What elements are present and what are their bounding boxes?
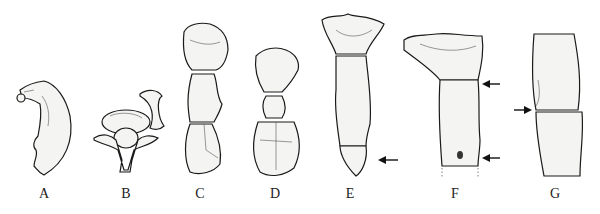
panel-label-a: A bbox=[34, 186, 54, 202]
figure-drawing bbox=[0, 0, 600, 214]
bone-specimen-figure: A B C D E F G bbox=[0, 0, 600, 214]
panel-label-c: C bbox=[190, 186, 210, 202]
panel-label-e: E bbox=[340, 186, 360, 202]
panel-label-g: G bbox=[545, 186, 565, 202]
panel-a-specimen bbox=[17, 81, 71, 175]
panel-label-f: F bbox=[445, 186, 465, 202]
panel-label-d: D bbox=[265, 186, 285, 202]
panel-f-specimen bbox=[404, 33, 500, 178]
panel-c-specimen bbox=[183, 23, 228, 173]
panel-e-specimen bbox=[322, 14, 398, 176]
panel-d-specimen bbox=[254, 48, 300, 175]
panel-g-specimen bbox=[514, 34, 583, 176]
panel-label-b: B bbox=[116, 186, 136, 202]
panel-b-specimen bbox=[94, 90, 164, 172]
